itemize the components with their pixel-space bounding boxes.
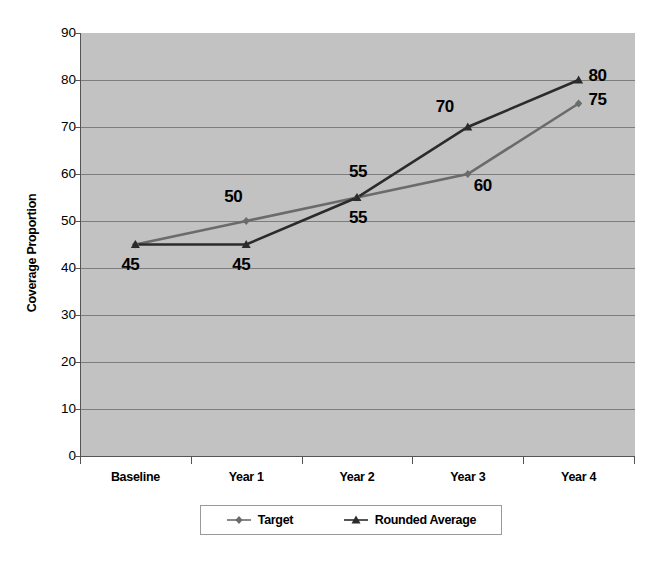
y-tick-mark <box>74 174 80 175</box>
data-label: 60 <box>474 176 492 196</box>
y-tick-mark <box>74 268 80 269</box>
x-tick-mark <box>523 457 524 464</box>
y-tick-label: 50 <box>44 214 76 228</box>
x-category-label: Year 1 <box>191 470 301 484</box>
gridline <box>81 80 635 81</box>
y-tick-mark <box>74 127 80 128</box>
y-tick-mark <box>74 33 80 34</box>
data-label: 75 <box>589 90 607 110</box>
gridline <box>81 127 635 128</box>
y-tick-label: 80 <box>44 73 76 87</box>
legend-entry: Rounded Average <box>343 513 477 527</box>
y-tick-label: 30 <box>44 308 76 322</box>
x-category-label: Baseline <box>80 470 190 484</box>
plot-area <box>80 33 635 457</box>
data-label: 80 <box>589 66 607 86</box>
legend-label: Target <box>258 513 293 527</box>
x-tick-mark <box>412 457 413 464</box>
gridline <box>81 268 635 269</box>
y-tick-label: 90 <box>44 26 76 40</box>
line-chart: Coverage Proportion 9080706050403020100 … <box>0 0 669 569</box>
x-tick-mark <box>302 457 303 464</box>
y-axis-tick-labels: 9080706050403020100 <box>44 0 76 569</box>
x-category-label: Year 4 <box>524 470 634 484</box>
x-tick-mark <box>634 457 635 464</box>
y-tick-mark <box>74 456 80 457</box>
data-label: 45 <box>232 255 250 275</box>
data-label: 50 <box>224 187 242 207</box>
y-tick-label: 10 <box>44 402 76 416</box>
y-tick-label: 0 <box>44 449 76 463</box>
y-tick-label: 20 <box>44 355 76 369</box>
x-tick-mark <box>80 457 81 464</box>
legend-entry: Target <box>226 513 293 527</box>
x-category-label: Year 3 <box>413 470 523 484</box>
y-tick-mark <box>74 221 80 222</box>
y-tick-label: 70 <box>44 120 76 134</box>
data-label: 70 <box>436 97 454 117</box>
y-tick-mark <box>74 315 80 316</box>
y-tick-mark <box>74 80 80 81</box>
x-tick-mark <box>191 457 192 464</box>
gridline <box>81 362 635 363</box>
data-label: 55 <box>349 208 367 228</box>
chart-legend: TargetRounded Average <box>200 505 502 535</box>
gridline <box>81 315 635 316</box>
triangle-icon <box>343 514 369 526</box>
diamond-marker <box>235 516 242 524</box>
y-tick-label: 40 <box>44 261 76 275</box>
data-label: 55 <box>349 162 367 182</box>
x-category-label: Year 2 <box>302 470 412 484</box>
y-axis-title: Coverage Proportion <box>25 173 39 333</box>
gridline <box>81 409 635 410</box>
data-label: 45 <box>121 255 139 275</box>
diamond-icon <box>226 514 252 526</box>
y-tick-label: 60 <box>44 167 76 181</box>
y-tick-mark <box>74 362 80 363</box>
legend-label: Rounded Average <box>375 513 477 527</box>
y-tick-mark <box>74 409 80 410</box>
